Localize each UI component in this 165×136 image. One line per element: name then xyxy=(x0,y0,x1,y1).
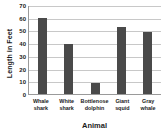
x-tick-label: Giantsquid xyxy=(109,98,135,113)
y-tick-label: 70 xyxy=(14,3,26,9)
y-tick-label: 10 xyxy=(14,79,26,85)
y-axis-title: Length in Feet xyxy=(6,16,13,92)
x-tick-label-line: Gray xyxy=(136,98,160,105)
x-tick-label-line: Whale xyxy=(29,98,53,105)
bars-container xyxy=(29,6,161,94)
bar-slot xyxy=(135,6,161,94)
x-tick-label: Whiteshark xyxy=(54,98,80,113)
y-axis-tick-labels: 706050403020100 xyxy=(14,6,26,95)
bar xyxy=(64,44,73,94)
y-tick-label: 30 xyxy=(14,54,26,60)
bar-chart-figure: Length in Feet 706050403020100 Whaleshar… xyxy=(0,0,165,136)
bar xyxy=(38,18,47,94)
x-tick-label-line: White xyxy=(55,98,79,105)
x-axis-title: Animal xyxy=(28,121,161,130)
plot-area xyxy=(28,6,161,95)
y-tick-label: 0 xyxy=(14,92,26,98)
x-tick-label-line: dolphin xyxy=(81,105,109,112)
x-tick-label: Graywhale xyxy=(135,98,161,113)
x-axis-tick-labels: WhalesharkWhitesharkBottlenosedolphinGia… xyxy=(28,98,161,113)
x-tick-label-line: squid xyxy=(110,105,134,112)
x-tick-label-line: whale xyxy=(136,105,160,112)
x-tick-label-line: Bottlenose xyxy=(81,98,109,105)
bar-slot xyxy=(29,6,55,94)
x-tick-label-line: Giant xyxy=(110,98,134,105)
bar-slot xyxy=(108,6,134,94)
y-tick-label: 20 xyxy=(14,67,26,73)
y-tick-label: 40 xyxy=(14,41,26,47)
x-tick-label: Whaleshark xyxy=(28,98,54,113)
x-tick-label: Bottlenosedolphin xyxy=(80,98,110,113)
y-tick-label: 60 xyxy=(14,16,26,22)
bar-slot xyxy=(55,6,81,94)
x-tick-label-line: shark xyxy=(29,105,53,112)
bar-slot xyxy=(82,6,108,94)
y-tick-label: 50 xyxy=(14,28,26,34)
bar xyxy=(143,32,152,94)
x-tick-label-line: shark xyxy=(55,105,79,112)
bar xyxy=(91,83,100,94)
bar xyxy=(117,27,126,94)
